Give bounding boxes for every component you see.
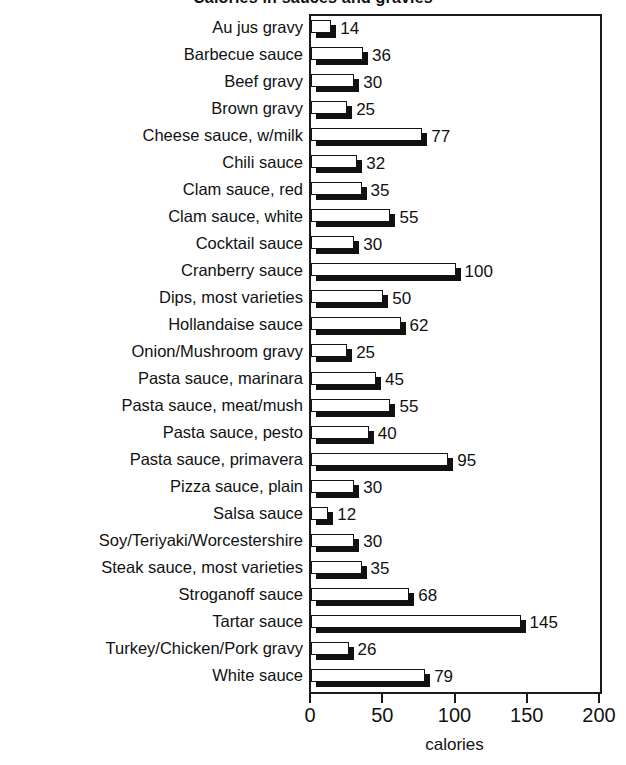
bar (311, 561, 367, 579)
x-axis-tick (526, 692, 528, 703)
bar (311, 669, 430, 687)
bar-face (311, 588, 409, 601)
category-label: Cheese sauce, w/milk (0, 126, 303, 145)
bar (311, 317, 406, 335)
bar-value-label: 95 (457, 452, 476, 469)
bar (311, 399, 395, 417)
category-label: Tartar sauce (0, 612, 303, 631)
bar-value-label: 14 (340, 20, 359, 37)
bar-value-label: 36 (372, 47, 391, 64)
bar-value-label: 30 (363, 236, 382, 253)
category-label: Pasta sauce, primavera (0, 450, 303, 469)
category-label: Au jus gravy (0, 18, 303, 37)
bar (311, 615, 526, 633)
bar (311, 507, 333, 525)
bar-face (311, 669, 425, 682)
bar-value-label: 55 (399, 398, 418, 415)
bar-face (311, 534, 354, 547)
bar (311, 182, 367, 200)
x-axis-tick-label: 150 (510, 704, 543, 726)
bar-face (311, 182, 362, 195)
category-axis-labels: Au jus gravyBarbecue sauceBeef gravyBrow… (0, 14, 303, 690)
bar-value-label: 35 (371, 182, 390, 199)
x-axis-tick-labels: 050100150200 (0, 704, 626, 728)
bar (311, 426, 374, 444)
bar-value-label: 100 (465, 263, 493, 280)
bar (311, 453, 453, 471)
bar-face (311, 615, 521, 628)
bar-value-label: 40 (378, 425, 397, 442)
x-axis-title: calories (309, 735, 600, 755)
category-label: Onion/Mushroom gravy (0, 342, 303, 361)
bar (311, 20, 336, 38)
bar-value-label: 26 (358, 641, 377, 658)
category-label: Stroganoff sauce (0, 585, 303, 604)
bar-value-label: 30 (363, 533, 382, 550)
plot-area (309, 14, 602, 694)
bar-value-label: 68 (418, 587, 437, 604)
x-axis-tick (598, 692, 600, 703)
bar-value-label: 30 (363, 479, 382, 496)
category-label: Cocktail sauce (0, 234, 303, 253)
category-label: Pizza sauce, plain (0, 477, 303, 496)
bar (311, 209, 395, 227)
bar-value-label: 30 (363, 74, 382, 91)
bar-value-label: 77 (431, 128, 450, 145)
bar-face (311, 317, 401, 330)
bar-face (311, 263, 456, 276)
bar-face (311, 453, 448, 466)
bar (311, 290, 388, 308)
category-label: Brown gravy (0, 99, 303, 118)
bar-value-label: 25 (356, 101, 375, 118)
bar (311, 642, 354, 660)
bar (311, 534, 359, 552)
bar-face (311, 344, 347, 357)
bar-value-label: 145 (530, 614, 558, 631)
x-axis-tick-label: 0 (304, 704, 315, 726)
bar (311, 480, 359, 498)
bar (311, 263, 461, 281)
bar-value-label: 32 (366, 155, 385, 172)
bar-face (311, 561, 362, 574)
x-axis-tick (309, 692, 311, 703)
bar (311, 47, 368, 65)
bar-face (311, 155, 357, 168)
bar-face (311, 101, 347, 114)
bar-face (311, 47, 363, 60)
bar-value-label: 79 (434, 668, 453, 685)
x-axis-tick-label: 100 (438, 704, 471, 726)
bar-face (311, 209, 390, 222)
bar-value-label: 62 (410, 317, 429, 334)
category-label: Salsa sauce (0, 504, 303, 523)
x-axis-tick (454, 692, 456, 703)
bar (311, 74, 359, 92)
category-label: Pasta sauce, pesto (0, 423, 303, 442)
category-label: Pasta sauce, marinara (0, 369, 303, 388)
category-label: Steak sauce, most varieties (0, 558, 303, 577)
category-label: Turkey/Chicken/Pork gravy (0, 639, 303, 658)
x-axis-ticks (309, 692, 600, 703)
bar-face (311, 642, 349, 655)
bar-value-label: 12 (337, 506, 356, 523)
chart-title: Calories in sauces and gravies (0, 0, 626, 7)
bar-face (311, 236, 354, 249)
category-label: Barbecue sauce (0, 45, 303, 64)
bar-face (311, 480, 354, 493)
bar-face (311, 128, 422, 141)
bar (311, 372, 381, 390)
x-axis-tick-label: 50 (371, 704, 393, 726)
category-label: Chili sauce (0, 153, 303, 172)
bar-value-label: 55 (399, 209, 418, 226)
bar-face (311, 372, 376, 385)
bar-face (311, 74, 354, 87)
bar-value-label: 25 (356, 344, 375, 361)
bar-face (311, 399, 390, 412)
category-label: Clam sauce, red (0, 180, 303, 199)
x-axis-tick-label: 200 (582, 704, 615, 726)
bar (311, 236, 359, 254)
category-label: Beef gravy (0, 72, 303, 91)
bar-face (311, 20, 331, 33)
bar-value-label: 45 (385, 371, 404, 388)
category-label: Hollandaise sauce (0, 315, 303, 334)
bar (311, 588, 414, 606)
